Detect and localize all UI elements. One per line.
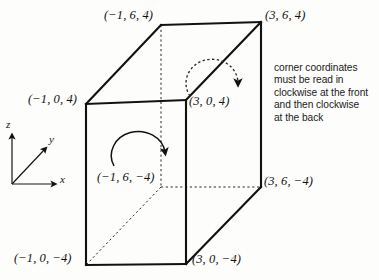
hidden-edges-group — [86, 25, 261, 265]
vertex-label-bottom-front-right: (3, 0, −4) — [192, 252, 241, 267]
annotation-line-2: must be read in — [274, 74, 378, 86]
annotation-line-3: clockwise at the front — [274, 87, 378, 99]
vertex-label-top-back-left: (−1, 6, 4) — [104, 8, 153, 23]
edge-bottom-front-left-to-bottom-front-right — [86, 264, 186, 265]
front-rotation-arrow — [111, 132, 165, 166]
vertex-label-top-back-right: (3, 6, 4) — [265, 8, 305, 23]
vertex-label-bottom-front-left: (−1, 0, −4) — [14, 251, 72, 266]
hidden-edge-bottom-back-left-to-bottom-front-left — [86, 187, 161, 265]
annotation-line-5: at the back — [274, 112, 378, 124]
vertex-label-top-front-right: (3, 0, 4) — [189, 94, 229, 109]
visible-edges-group — [86, 22, 261, 265]
box-vector-graphic — [0, 0, 379, 280]
edge-top-back-left-to-top-front-left — [86, 25, 161, 104]
vertex-label-top-front-left: (−1, 0, 4) — [28, 92, 77, 107]
x-axis-label: x — [60, 173, 65, 185]
box-coordinate-diagram: (−1, 6, 4) (3, 6, 4) (−1, 0, 4) (3, 0, 4… — [0, 0, 379, 280]
vertex-label-bottom-back-left: (−1, 6, −4) — [97, 170, 155, 185]
edge-top-front-left-to-top-front-right — [86, 100, 186, 104]
vertex-label-bottom-back-right: (3, 6, −4) — [264, 174, 313, 189]
annotation-line-4: and then clockwise — [274, 99, 378, 111]
annotation-note: corner coordinates must be read in clock… — [274, 62, 378, 124]
y-axis-line — [12, 149, 45, 184]
axes-group — [12, 136, 54, 184]
edge-top-back-left-to-top-back-right — [161, 22, 261, 25]
y-axis-label: y — [49, 133, 54, 145]
z-axis-label: z — [6, 118, 10, 130]
annotation-line-1: corner coordinates — [274, 62, 378, 74]
